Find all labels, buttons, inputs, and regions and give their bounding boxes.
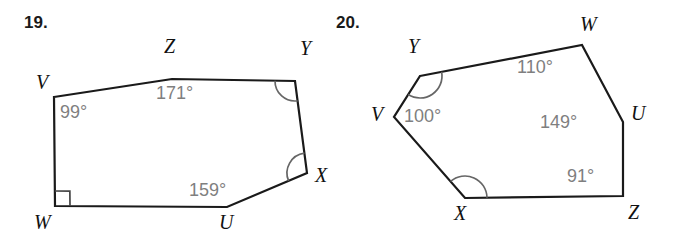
worksheet-page: 19. 20. VZYXUW99°171°159°YWUZXV110°149°9… xyxy=(0,0,674,248)
angle-measure-v-figure19: 99° xyxy=(60,103,87,121)
vertex-label-x-figure20: X xyxy=(454,203,466,223)
vertex-label-z-figure20: Z xyxy=(628,202,639,222)
right-angle-mark-w-figure19 xyxy=(55,191,70,206)
angle-measure-u-figure20: 149° xyxy=(540,113,577,131)
vertex-label-v-figure19: V xyxy=(36,72,48,92)
angle-measure-v-figure20: 100° xyxy=(404,107,441,125)
vertex-label-y-figure20: Y xyxy=(408,36,419,56)
vertex-label-x-figure19: X xyxy=(315,165,327,185)
vertex-label-u-figure20: U xyxy=(631,103,645,123)
vertex-label-z-figure19: Z xyxy=(164,36,175,56)
angle-arc-y-figure19 xyxy=(275,81,298,101)
angle-measure-z-figure20: 91° xyxy=(567,167,594,185)
vertex-label-w-figure20: W xyxy=(580,14,597,34)
vertex-label-u-figure19: U xyxy=(219,212,233,232)
vertex-label-w-figure19: W xyxy=(34,212,51,232)
angle-measure-u-figure19: 159° xyxy=(189,181,226,199)
angle-measure-w-figure20: 110° xyxy=(517,58,553,76)
vertex-label-y-figure19: Y xyxy=(300,38,311,58)
vertex-label-v-figure20: V xyxy=(371,104,383,124)
angle-measure-z-figure19: 171° xyxy=(156,84,193,102)
